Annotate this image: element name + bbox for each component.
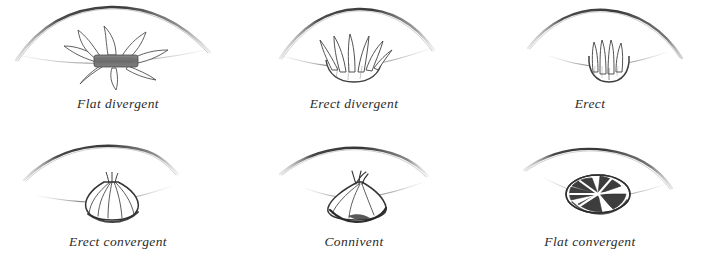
figure-caption: Flat convergent bbox=[472, 234, 708, 250]
figure-caption: Connivent bbox=[236, 234, 472, 250]
botanical-plate: Flat divergent bbox=[0, 0, 708, 276]
figure-caption: Erect convergent bbox=[0, 234, 236, 250]
figure-grid: Flat divergent bbox=[0, 0, 708, 276]
figure-connivent: Connivent bbox=[236, 138, 472, 276]
figure-caption: Flat divergent bbox=[0, 96, 236, 112]
connivent-anther-icon bbox=[236, 138, 472, 242]
figure-erect-convergent: Erect convergent bbox=[0, 138, 236, 276]
figure-flat-convergent: Flat convergent bbox=[472, 138, 708, 276]
figure-erect: Erect bbox=[472, 0, 708, 138]
erect-convergent-anther-icon bbox=[0, 138, 236, 242]
erect-divergent-anther-icon bbox=[236, 0, 472, 104]
flat-convergent-anther-icon bbox=[472, 138, 708, 242]
erect-anther-icon bbox=[472, 0, 708, 104]
figure-flat-divergent: Flat divergent bbox=[0, 0, 236, 138]
figure-caption: Erect divergent bbox=[236, 96, 472, 112]
figure-erect-divergent: Erect divergent bbox=[236, 0, 472, 138]
figure-caption: Erect bbox=[472, 96, 708, 112]
flat-divergent-anther-icon bbox=[0, 0, 236, 104]
